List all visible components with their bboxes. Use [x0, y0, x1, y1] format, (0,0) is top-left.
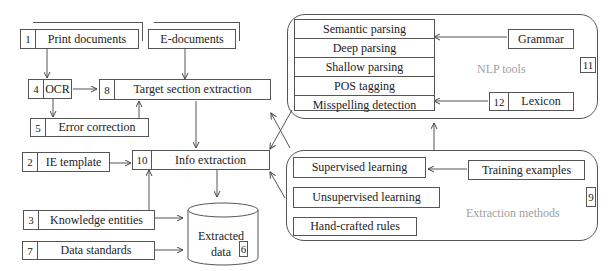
print-documents-label: Print documents	[36, 32, 138, 47]
error-correction-box: 5 Error correction	[30, 118, 149, 137]
nlp-tools-number: 11	[580, 57, 596, 73]
lexicon-box: 12 Lexicon	[489, 92, 574, 111]
pos-tagging: POS tagging	[295, 77, 434, 96]
unsupervised-learning-label: Unsupervised learning	[294, 190, 439, 205]
supervised-learning-label: Supervised learning	[294, 160, 425, 175]
nlp-parsing-stack: Semantic parsing Deep parsing Shallow pa…	[294, 19, 435, 111]
extraction-methods-label: Extraction methods	[466, 206, 560, 221]
box-number: 1	[21, 30, 36, 48]
extracted-data-number: 6	[239, 241, 248, 257]
ie-template-label: IE template	[38, 155, 109, 170]
info-extraction-box: 10 Info extraction	[132, 150, 270, 170]
training-examples-box: Training examples	[468, 160, 585, 180]
print-documents-box: 1 Print documents	[20, 29, 139, 49]
shallow-parsing: Shallow parsing	[295, 58, 434, 77]
extraction-methods-number: 9	[586, 187, 596, 207]
ie-template-box: 2 IE template	[22, 152, 110, 172]
box-number: 10	[133, 151, 152, 169]
box-number: 2	[23, 153, 38, 171]
data-standards-label: Data standards	[38, 243, 154, 258]
e-documents-label: E-documents	[149, 32, 235, 47]
target-section-extraction-label: Target section extraction	[115, 82, 270, 97]
ocr-label: OCR	[44, 82, 71, 97]
e-documents-box: E-documents	[148, 29, 236, 49]
misspelling-detection: Misspelling detection	[295, 96, 434, 114]
lexicon-label: Lexicon	[509, 94, 573, 109]
semantic-parsing: Semantic parsing	[295, 20, 434, 39]
hand-crafted-rules-label: Hand-crafted rules	[294, 219, 416, 234]
box-number: 8	[100, 80, 115, 99]
box-number: 3	[24, 211, 39, 229]
data-standards-box: 7 Data standards	[22, 241, 155, 260]
grammar-label: Grammar	[509, 32, 573, 47]
error-correction-label: Error correction	[46, 120, 148, 135]
box-number: 5	[31, 119, 46, 136]
training-examples-label: Training examples	[469, 163, 584, 178]
deep-parsing: Deep parsing	[295, 39, 434, 58]
nlp-tools-label: NLP tools	[477, 62, 526, 77]
box-number: 7	[23, 242, 38, 259]
unsupervised-learning-box: Unsupervised learning	[293, 187, 440, 208]
info-extraction-label: Info extraction	[152, 153, 269, 168]
hand-crafted-rules-box: Hand-crafted rules	[293, 217, 417, 236]
ocr-box: 4 OCR	[28, 79, 72, 99]
knowledge-entities-label: Knowledge entities	[39, 213, 154, 228]
knowledge-entities-box: 3 Knowledge entities	[23, 210, 155, 230]
supervised-learning-box: Supervised learning	[293, 157, 426, 178]
box-number: 12	[490, 93, 509, 110]
target-section-extraction-box: 8 Target section extraction	[99, 79, 271, 100]
box-number: 4	[29, 80, 44, 98]
grammar-box: Grammar	[508, 29, 574, 49]
